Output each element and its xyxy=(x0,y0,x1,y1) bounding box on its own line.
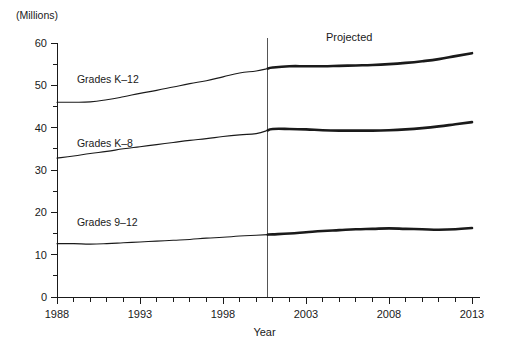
y-tick-label-60: 60 xyxy=(35,37,47,49)
series-line-projected-2 xyxy=(268,228,472,235)
series-line-actual-2 xyxy=(57,235,268,244)
y-tick-label-40: 40 xyxy=(35,122,47,134)
x-tick-label-2008: 2008 xyxy=(377,308,401,320)
y-tick-label-10: 10 xyxy=(35,249,47,261)
x-axis-title: Year xyxy=(253,326,276,338)
chart-container: 0102030405060198819931998200320082013(Mi… xyxy=(0,0,508,351)
x-tick-label-1998: 1998 xyxy=(211,308,235,320)
series-line-projected-0 xyxy=(268,53,472,68)
series-label-k12: Grades K–12 xyxy=(77,73,139,85)
line-chart: 0102030405060198819931998200320082013(Mi… xyxy=(0,0,508,351)
y-tick-label-20: 20 xyxy=(35,206,47,218)
series-label-k8: Grades K–8 xyxy=(77,137,133,149)
y-tick-label-0: 0 xyxy=(41,291,47,303)
series-label-912: Grades 9–12 xyxy=(77,216,138,228)
x-tick-label-1988: 1988 xyxy=(45,308,69,320)
series-line-projected-1 xyxy=(268,122,472,131)
projected-label: Projected xyxy=(326,31,372,43)
y-tick-label-30: 30 xyxy=(35,164,47,176)
x-tick-label-1993: 1993 xyxy=(128,308,152,320)
x-tick-label-2013: 2013 xyxy=(460,308,484,320)
x-tick-label-2003: 2003 xyxy=(294,308,318,320)
y-axis-units-label: (Millions) xyxy=(16,9,58,21)
y-tick-label-50: 50 xyxy=(35,79,47,91)
